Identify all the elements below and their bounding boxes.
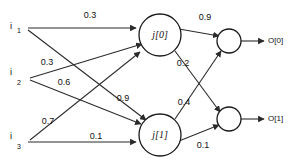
input-label-i1: i 1 <box>10 20 21 34</box>
input-label-i1-subscript: 1 <box>17 27 21 34</box>
weight-label-i3-j0: 0.7 <box>42 116 55 126</box>
output-label-O0: O[0] <box>268 36 283 45</box>
hidden-node-j1[interactable]: j[1] <box>139 114 181 156</box>
edge-j1-o1 <box>179 125 219 141</box>
output-node-o0-circle[interactable] <box>217 29 241 53</box>
input-label-i2-subscript: 2 <box>17 79 21 86</box>
input-label-i3-base: i <box>10 130 12 141</box>
edge-group-output-arrows <box>241 41 264 119</box>
weight-label-i1-j1: 0.9 <box>117 93 130 103</box>
weight-label-j1-o1: 0.1 <box>197 140 210 150</box>
weight-label-i2-j0: 0.3 <box>41 57 54 67</box>
hidden-node-j0[interactable]: j[0] <box>139 14 181 56</box>
weight-label-i2-j1: 0.6 <box>58 77 71 87</box>
neural-network-diagram: j[0] j[1] i 1 i 2 i 3 O[0] O[1] 0.3 <box>0 0 307 164</box>
input-label-i1-base: i <box>10 20 12 31</box>
output-node-o0[interactable] <box>217 29 241 53</box>
output-label-O1: O[1] <box>268 114 283 123</box>
diagram-canvas: j[0] j[1] i 1 i 2 i 3 O[0] O[1] 0.3 <box>0 0 307 164</box>
hidden-node-j1-label: j[1] <box>150 129 168 140</box>
weight-label-j0-o1: 0.2 <box>177 58 190 68</box>
input-label-i3-subscript: 3 <box>17 143 21 150</box>
weight-label-i3-j1: 0.1 <box>90 131 103 141</box>
output-node-o1-circle[interactable] <box>217 107 241 131</box>
output-node-o1[interactable] <box>217 107 241 131</box>
edge-i1-j1 <box>28 30 146 120</box>
input-label-i2-base: i <box>10 66 12 77</box>
input-label-i2: i 2 <box>10 66 21 86</box>
weight-label-j1-o0: 0.4 <box>178 97 191 107</box>
edge-group-hidden-output <box>175 29 221 141</box>
weight-label-j0-o0: 0.9 <box>199 12 212 22</box>
hidden-node-j0-label: j[0] <box>150 29 168 40</box>
edge-j0-o0 <box>179 29 219 36</box>
input-label-i3: i 3 <box>10 130 21 150</box>
weight-label-i1-j0: 0.3 <box>84 10 97 20</box>
